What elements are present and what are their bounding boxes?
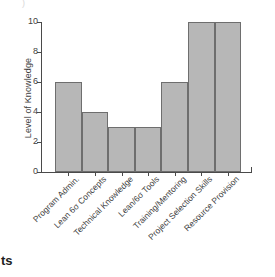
y-axis-tick-label: 2 <box>33 136 38 146</box>
plot-area: 0246810 <box>41 22 252 172</box>
y-axis-tick-label: 10 <box>28 16 38 26</box>
bar <box>215 22 242 172</box>
y-axis-tick-label: 4 <box>33 106 38 116</box>
bar <box>82 112 109 172</box>
y-axis-tick-label: 0 <box>33 166 38 176</box>
y-axis-title: Level of Knowledge <box>23 28 33 168</box>
x-axis-category-labels: Program Admin.Lean 6σ ConceptsTechnical … <box>41 174 275 269</box>
y-axis-tick-label: 6 <box>33 76 38 86</box>
cut-off-top-text-fragment: ) <box>22 0 25 8</box>
bar <box>135 127 162 172</box>
bar-chart-figure: ) Level of Knowledge 0246810 Program Adm… <box>0 0 275 277</box>
bar <box>188 22 215 172</box>
x-axis-line <box>41 172 252 173</box>
bar <box>161 82 188 172</box>
cut-off-caption-fragment: ts <box>1 253 12 268</box>
y-axis-tick-label: 8 <box>33 46 38 56</box>
bar <box>55 82 82 172</box>
bars-layer <box>41 22 252 172</box>
bar <box>108 127 135 172</box>
